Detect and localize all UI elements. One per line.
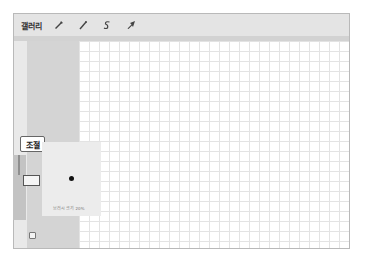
brush-dot-icon — [69, 176, 74, 181]
brush-size-caption: 브러시 크기 20% — [53, 205, 84, 211]
selection-button[interactable] — [96, 16, 118, 34]
slider-thumb[interactable] — [23, 175, 40, 186]
brush-preview-popup: 브러시 크기 20% — [42, 142, 101, 216]
magic-wand-button[interactable] — [72, 16, 94, 34]
modify-button-checkbox[interactable] — [29, 232, 36, 239]
slider-track-line — [18, 155, 20, 175]
wrench-button[interactable] — [48, 16, 70, 34]
wrench-icon — [54, 20, 64, 30]
gallery-button[interactable]: 갤러리 — [21, 20, 42, 31]
top-toolbar: 갤러리 — [14, 14, 349, 37]
selection-s-icon — [102, 20, 112, 30]
arrow-cursor-icon — [126, 20, 136, 30]
magic-wand-icon — [78, 20, 88, 30]
drawing-canvas[interactable] — [79, 41, 349, 248]
transform-button[interactable] — [120, 16, 142, 34]
